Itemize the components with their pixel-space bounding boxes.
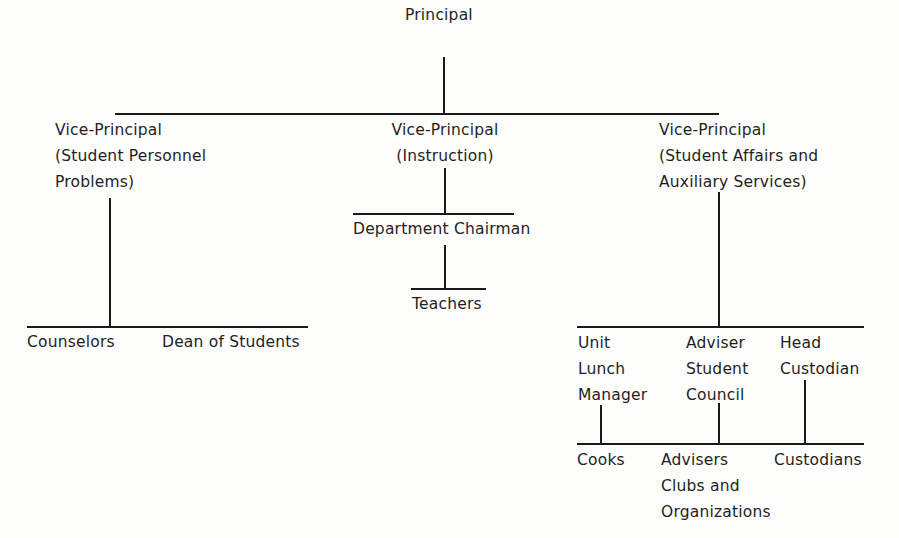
node-head-custodian: Head Custodian xyxy=(780,330,860,382)
node-vp-instruction: Vice-Principal (Instruction) xyxy=(370,117,520,169)
node-advisers-clubs: Advisers Clubs and Organizations xyxy=(661,447,771,525)
node-counselors: Counselors xyxy=(27,329,115,355)
node-teachers: Teachers xyxy=(412,291,482,317)
node-custodians: Custodians xyxy=(774,447,862,473)
node-principal: Principal xyxy=(405,2,473,28)
node-dean-of-students: Dean of Students xyxy=(162,329,300,355)
node-adviser-student-council: Adviser Student Council xyxy=(686,330,748,408)
node-cooks: Cooks xyxy=(577,447,625,473)
node-vp-student-affairs: Vice-Principal (Student Affairs and Auxi… xyxy=(659,117,818,195)
node-vp-student-personnel: Vice-Principal (Student Personnel Proble… xyxy=(55,117,206,195)
node-unit-lunch-manager: Unit Lunch Manager xyxy=(578,330,647,408)
node-department-chairman: Department Chairman xyxy=(353,216,531,242)
